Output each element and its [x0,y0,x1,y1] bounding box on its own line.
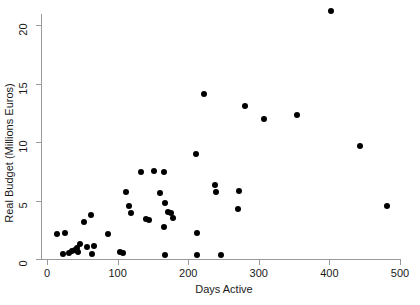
data-point [328,8,334,14]
y-axis-tick-label-wrap: 5 [14,195,32,213]
data-point [162,200,168,206]
data-point [242,103,248,109]
data-point [81,219,87,225]
y-axis-tick-label: 10 [18,140,29,152]
data-point [294,112,300,118]
x-axis-tick-label: 0 [44,268,50,279]
data-point [138,169,144,175]
data-point [128,210,134,216]
data-point [357,143,363,149]
x-axis-line [41,259,401,260]
x-axis-tick-label: 200 [179,268,197,279]
data-point [162,252,168,258]
data-point [201,91,207,97]
data-point [193,151,199,157]
data-point [54,231,60,237]
data-point [91,243,97,249]
data-point [105,231,111,237]
data-point [77,241,83,247]
x-axis-tick-label: 400 [320,268,338,279]
y-axis-tick-label: 15 [18,82,29,94]
x-axis-tick [259,260,260,265]
x-axis-tick [188,260,189,265]
y-axis-tick-label-wrap: 0 [14,253,32,271]
data-point [213,189,219,195]
data-point [157,190,163,196]
data-point [384,203,390,209]
data-point [123,189,129,195]
data-point [236,188,242,194]
x-axis-tick-label: 500 [391,268,409,279]
data-point [146,217,152,223]
data-point [151,168,157,174]
data-point [170,215,176,221]
x-axis-tick-label: 300 [250,268,268,279]
y-axis-tick-label: 20 [18,23,29,35]
x-axis-tick [329,260,330,265]
y-axis-tick-label: 5 [18,202,29,208]
plot-data-area [41,8,411,259]
x-axis-tick [47,260,48,265]
data-point [75,249,81,255]
x-axis-title: Days Active [195,283,252,295]
data-point [235,206,241,212]
y-axis-tick-label-wrap: 20 [14,19,32,37]
y-axis-tick-label: 0 [18,260,29,266]
data-point [194,230,200,236]
data-point [212,182,218,188]
data-point [261,116,267,122]
data-point [161,224,167,230]
x-axis-tick [400,260,401,265]
data-point [88,212,94,218]
y-axis-tick-label-wrap: 10 [14,136,32,154]
data-point [161,169,167,175]
data-point [84,244,90,250]
data-point [218,252,224,258]
x-axis-tick-label: 100 [108,268,126,279]
data-point [194,252,200,258]
data-point [62,230,68,236]
data-point [126,203,132,209]
x-axis-tick [118,260,119,265]
data-point [60,251,66,257]
y-axis-tick-label-wrap: 15 [14,78,32,96]
y-axis-tick [36,259,41,260]
data-point [89,251,95,257]
data-point [120,250,126,256]
scatter-plot-figure: Real Budget (Millions Euros) Days Active… [0,0,420,305]
